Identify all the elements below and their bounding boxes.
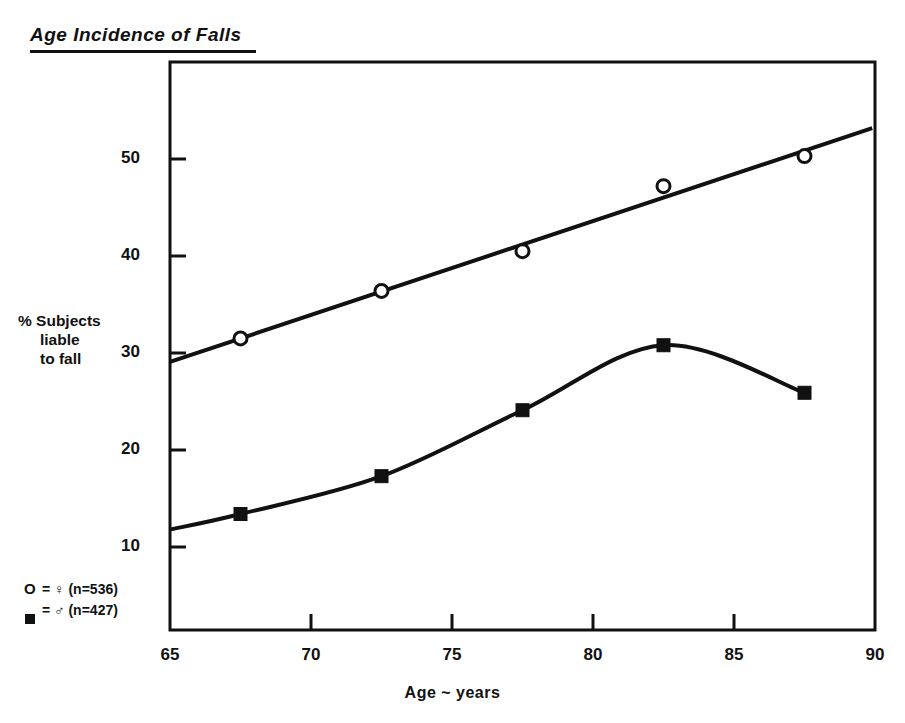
x-axis-ticks — [311, 614, 734, 630]
data-point-male — [234, 508, 247, 521]
figure-age-incidence-of-falls: Age Incidence of Falls % Subjects liable… — [0, 0, 905, 723]
plot-frame — [170, 62, 875, 630]
series-line-male — [170, 345, 805, 529]
data-point-female — [657, 180, 670, 193]
data-point-female — [234, 332, 247, 345]
data-point-female — [516, 245, 529, 258]
data-point-female — [375, 284, 388, 297]
data-point-male — [657, 339, 670, 352]
data-point-male — [516, 404, 529, 417]
plot-area — [0, 0, 905, 723]
y-axis-ticks — [170, 159, 186, 547]
data-point-male — [375, 470, 388, 483]
data-point-female — [798, 150, 811, 163]
data-point-male — [798, 386, 811, 399]
